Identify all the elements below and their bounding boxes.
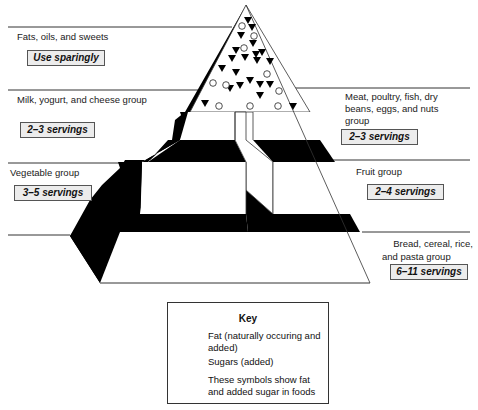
servings-fats: Use sparingly: [27, 50, 105, 66]
tier-meat: [253, 112, 320, 140]
fat-symbol-icon: [223, 82, 230, 89]
label-vegetable: Vegetable group: [10, 167, 79, 179]
key-box: Key Fat (naturally occuring and added) S…: [167, 302, 329, 404]
fat-symbol-icon: [251, 33, 258, 40]
servings-bread: 6–11 servings: [390, 264, 468, 280]
label-meat: Meat, poultry, fish, dry beans, eggs, an…: [345, 91, 439, 127]
key-title: Key: [168, 313, 328, 324]
key-note: These symbols show fat and added sugar i…: [208, 374, 315, 398]
tier-milk: [180, 112, 235, 140]
label-bread-line: Bread, cereal, rice,: [383, 238, 473, 250]
key-fat-label: Fat (naturally occuring and added): [208, 330, 320, 354]
band-veg-shadow: [120, 214, 248, 232]
key-note-line: and added sugar in foods: [208, 386, 315, 398]
tier-fats: [190, 5, 310, 112]
key-fat-line: added): [208, 342, 320, 354]
servings-fruit: 2–4 servings: [367, 184, 444, 200]
tier-bread: [100, 232, 370, 283]
label-meat-line: Meat, poultry, fish, dry: [345, 91, 439, 103]
fat-symbol-icon: [216, 103, 223, 110]
label-milk: Milk, yogurt, and cheese group: [17, 94, 147, 106]
fat-symbol-icon: [210, 80, 217, 87]
tier-vegetable: [140, 162, 246, 214]
tier-fruit: [273, 162, 350, 214]
key-fat-line: Fat (naturally occuring and: [208, 330, 320, 342]
label-bread-2: and pasta group: [382, 251, 451, 263]
fat-symbol-icon: [275, 103, 282, 110]
label-fruit: Fruit group: [356, 166, 402, 178]
label-meat-line: group: [345, 115, 439, 127]
band-milk-shadow: [148, 140, 246, 162]
fat-symbol-icon: [239, 23, 246, 30]
servings-meat: 2–3 servings: [341, 129, 418, 145]
fat-symbol-icon: [241, 45, 248, 52]
key-sugar-label: Sugars (added): [208, 356, 273, 368]
label-bread: Bread, cereal, rice,: [383, 238, 473, 250]
servings-vegetable: 3–5 servings: [14, 185, 92, 201]
fat-symbol-icon: [247, 103, 254, 110]
key-note-line: These symbols show fat: [208, 374, 315, 386]
fat-symbol-icon: [264, 71, 271, 78]
label-meat-line: beans, eggs, and nuts: [345, 103, 439, 115]
fat-symbol-icon: [276, 88, 283, 95]
label-fats: Fats, oils, and sweets: [17, 31, 108, 43]
servings-milk: 2–3 servings: [20, 122, 95, 138]
